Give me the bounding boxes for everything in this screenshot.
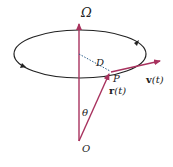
position-arg: (t) [114,85,126,96]
distance-label: D [95,57,104,68]
point-label: P [112,73,120,84]
velocity-arg: (t) [152,74,164,85]
position-label: r(t) [109,85,126,96]
rotation-diagram: Ω D P v(t) r(t) θ O [0,0,173,167]
velocity-vector [111,61,160,72]
origin-label: O [82,143,90,154]
velocity-label: v(t) [145,74,164,85]
distance-line [79,54,110,71]
angle-label: θ [82,107,88,118]
omega-label: Ω [80,5,92,20]
